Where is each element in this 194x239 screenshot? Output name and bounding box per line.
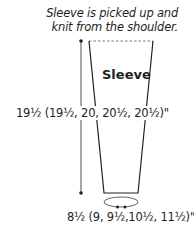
length-measurement-label: 19½ (19½, 20, 20½, 20½)" bbox=[15, 106, 170, 120]
piece-label: Sleeve bbox=[102, 67, 151, 83]
cuff-circumference-ellipse bbox=[104, 197, 138, 207]
length-measure-bottom-dot bbox=[79, 191, 83, 195]
cuff-measure-dot-left bbox=[116, 206, 119, 209]
length-measure-top-dot bbox=[79, 39, 83, 43]
cuff-measurement-label: 8½ (9, 9½,10½, 11½)" bbox=[67, 210, 194, 224]
cuff-measure-dot-right bbox=[124, 206, 127, 209]
